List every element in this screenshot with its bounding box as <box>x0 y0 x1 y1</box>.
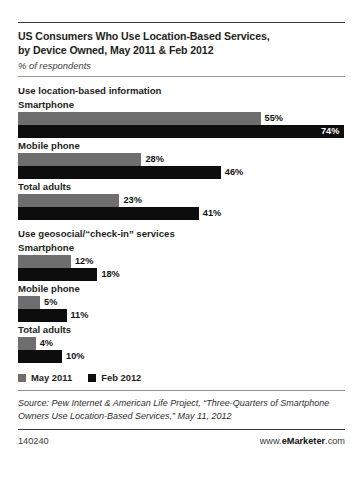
chart-title-line1: US Consumers Who Use Location-Based Serv… <box>18 30 270 42</box>
chart-sections: Use location-based informationSmartphone… <box>18 85 345 363</box>
legend-item-may-2011: May 2011 <box>18 372 72 383</box>
divider-under-subtitle <box>18 76 345 77</box>
bar <box>18 166 221 179</box>
bar <box>18 255 71 268</box>
chart-section: Use geosocial/“check-in” servicesSmartph… <box>18 228 345 363</box>
bar-value-label: 41% <box>199 207 221 220</box>
legend-label-feb-2012: Feb 2012 <box>101 372 141 383</box>
bar-group-label: Total adults <box>18 323 345 336</box>
bar-group-label: Mobile phone <box>18 139 345 152</box>
divider-top <box>18 22 345 23</box>
bar <box>18 337 36 350</box>
footer-brand-name: eMarketer <box>282 436 325 446</box>
bar-row: 46% <box>18 166 345 179</box>
bar-group-label: Mobile phone <box>18 282 345 295</box>
bar-row: 11% <box>18 309 345 322</box>
divider-above-footer <box>18 429 345 430</box>
bar-row: 18% <box>18 268 345 281</box>
bar-row: 5% <box>18 296 345 309</box>
chart-title: US Consumers Who Use Location-Based Serv… <box>18 30 345 57</box>
bar-row: 10% <box>18 350 345 363</box>
bar <box>18 350 62 363</box>
bar-group: Smartphone12%18% <box>18 241 345 281</box>
footer-chart-id: 140240 <box>18 436 49 446</box>
bar-group-label: Smartphone <box>18 241 345 254</box>
bar-group-bars: 55%74% <box>18 112 345 138</box>
bar <box>18 194 119 207</box>
bar <box>18 207 199 220</box>
bar-value-label: 28% <box>141 153 163 166</box>
legend-swatch-icon-may-2011 <box>18 374 26 382</box>
chart-page: US Consumers Who Use Location-Based Serv… <box>0 22 363 486</box>
bar-value-label: 23% <box>119 194 141 207</box>
bar-value-label: 18% <box>97 268 119 281</box>
bar-group-label: Smartphone <box>18 98 345 111</box>
chart-source-note: Source: Pew Internet & American Life Pro… <box>18 397 345 422</box>
bar-group: Smartphone55%74% <box>18 98 345 138</box>
bar-value-label: 5% <box>40 296 57 309</box>
bar <box>18 309 67 322</box>
chart-legend: May 2011 Feb 2012 <box>18 372 345 383</box>
bar-group: Total adults4%10% <box>18 323 345 363</box>
section-heading: Use geosocial/“check-in” services <box>18 228 345 240</box>
bar-group-bars: 23%41% <box>18 194 345 220</box>
bar <box>18 153 141 166</box>
chart-subtitle: % of respondents <box>18 60 345 71</box>
bar-group-bars: 12%18% <box>18 255 345 281</box>
bar <box>18 125 344 138</box>
footer-brand-prefix: www. <box>260 436 282 446</box>
chart-title-line2: by Device Owned, May 2011 & Feb 2012 <box>18 44 345 58</box>
bar-group-label: Total adults <box>18 180 345 193</box>
divider-above-source <box>18 390 345 391</box>
bar-group: Mobile phone5%11% <box>18 282 345 322</box>
bar <box>18 112 261 125</box>
bar-value-label: 74% <box>308 125 344 138</box>
bar-group: Total adults23%41% <box>18 180 345 220</box>
bar-row: 4% <box>18 337 345 350</box>
bar-row: 12% <box>18 255 345 268</box>
bar-value-label: 11% <box>67 309 89 322</box>
legend-swatch-icon-feb-2012 <box>88 374 96 382</box>
bar-row: 74% <box>18 125 345 138</box>
bar-value-label: 46% <box>221 166 243 179</box>
bar-value-label: 4% <box>36 337 53 350</box>
bar-group-bars: 4%10% <box>18 337 345 363</box>
bar-value-label: 10% <box>62 350 84 363</box>
chart-footer: 140240 www.eMarketer.com <box>18 436 345 446</box>
bar-value-label: 55% <box>261 112 283 125</box>
bar <box>18 296 40 309</box>
chart-section: Use location-based informationSmartphone… <box>18 85 345 220</box>
bar-row: 28% <box>18 153 345 166</box>
section-heading: Use location-based information <box>18 85 345 97</box>
bar <box>18 268 97 281</box>
bar-group-bars: 28%46% <box>18 153 345 179</box>
bar-row: 55% <box>18 112 345 125</box>
legend-label-may-2011: May 2011 <box>31 372 72 383</box>
bar-row: 41% <box>18 207 345 220</box>
legend-item-feb-2012: Feb 2012 <box>88 372 141 383</box>
bar-value-label: 12% <box>71 255 93 268</box>
bar-group: Mobile phone28%46% <box>18 139 345 179</box>
footer-brand: www.eMarketer.com <box>260 436 345 446</box>
bar-group-bars: 5%11% <box>18 296 345 322</box>
footer-brand-suffix: .com <box>325 436 345 446</box>
bar-row: 23% <box>18 194 345 207</box>
